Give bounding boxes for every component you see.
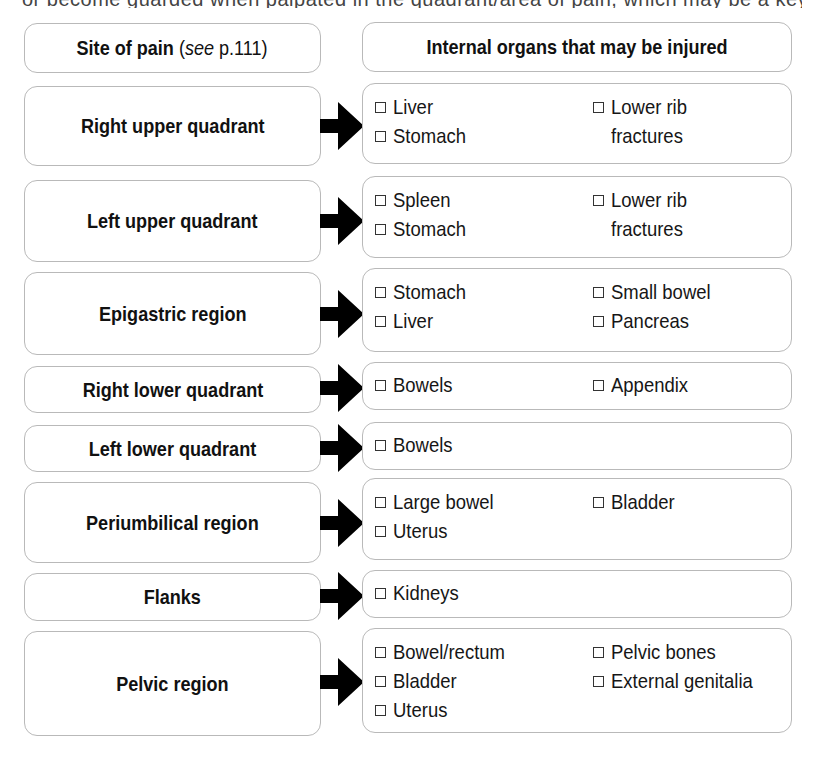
site-label: Flanks [144,585,201,609]
organ-item: Stomach [375,277,476,306]
organ-item: Pelvic bones [593,637,772,666]
empty-checkbox-icon [375,195,386,206]
empty-checkbox-icon [593,497,604,508]
site-label: Periumbilical region [86,511,259,535]
empty-checkbox-icon [593,380,604,391]
empty-checkbox-icon [375,287,386,298]
organ-item: Kidneys [375,578,468,607]
organ-item: Appendix [593,370,699,399]
empty-checkbox-icon [375,526,386,537]
empty-checkbox-icon [593,316,604,327]
internal-organs-header: Internal organs that may be injured [362,22,792,72]
empty-checkbox-icon [375,647,386,658]
empty-checkbox-icon [375,440,386,451]
organs-box-right-upper-quadrant: Liver Stomach Lower rib fractures [362,83,792,164]
organ-item: Lower rib [593,185,697,214]
site-label: Left lower quadrant [89,437,257,461]
organs-box-left-lower-quadrant: Bowels [362,422,792,470]
organs-box-periumbilical-region: Large bowel Uterus Bladder [362,478,792,560]
organ-item: Bladder [593,487,683,516]
organ-item: Bladder [375,666,520,695]
internal-organs-heading: Internal organs that may be injured [426,35,727,59]
right-arrow-icon [320,364,364,412]
right-arrow-icon [320,424,364,472]
organ-item: Stomach [375,214,476,243]
site-box-right-upper-quadrant: Right upper quadrant [24,86,321,166]
organ-item: Stomach [375,121,476,150]
right-arrow-icon [320,658,364,706]
empty-checkbox-icon [375,705,386,716]
organ-item: Pancreas [593,306,724,335]
site-of-pain-header: Site of pain (see p.111) [24,23,321,73]
empty-checkbox-icon [375,380,386,391]
empty-checkbox-icon [593,676,604,687]
right-arrow-icon [320,572,364,620]
organ-item-continuation: fractures [593,121,697,150]
right-arrow-icon [320,499,364,547]
empty-checkbox-icon [375,588,386,599]
organ-item: Liver [375,92,476,121]
site-label: Right lower quadrant [82,378,263,402]
organ-item: Uterus [375,516,507,545]
empty-checkbox-icon [593,102,604,113]
site-of-pain-heading: Site of pain (see p.111) [77,36,268,60]
organs-box-left-upper-quadrant: Spleen Stomach Lower rib fractures [362,176,792,258]
empty-checkbox-icon [593,287,604,298]
site-label: Epigastric region [99,302,247,326]
site-box-left-upper-quadrant: Left upper quadrant [24,180,321,262]
site-label: Pelvic region [116,672,228,696]
empty-checkbox-icon [375,102,386,113]
empty-checkbox-icon [375,316,386,327]
site-label: Left upper quadrant [87,209,258,233]
empty-checkbox-icon [375,224,386,235]
organ-item: Spleen [375,185,476,214]
empty-checkbox-icon [593,195,604,206]
organs-box-epigastric-region: Stomach Liver Small bowel Pancreas [362,268,792,352]
organs-box-pelvic-region: Bowel/rectum Bladder Uterus Pelvic bones… [362,628,792,733]
right-arrow-icon [320,290,364,338]
empty-checkbox-icon [593,647,604,658]
organs-box-right-lower-quadrant: Bowels Appendix [362,362,792,410]
cutoff-text-line: or become guarded when palpated in the q… [22,0,802,8]
site-box-right-lower-quadrant: Right lower quadrant [24,366,321,413]
organ-item: Liver [375,306,476,335]
empty-checkbox-icon [375,131,386,142]
site-box-flanks: Flanks [24,573,321,621]
empty-checkbox-icon [375,676,386,687]
right-arrow-icon [320,102,364,150]
organ-item: Uterus [375,695,520,724]
organ-item: Bowels [375,370,461,399]
site-box-periumbilical-region: Periumbilical region [24,482,321,563]
organ-item: Bowels [375,430,461,459]
site-box-epigastric-region: Epigastric region [24,272,321,355]
site-box-left-lower-quadrant: Left lower quadrant [24,425,321,472]
organ-item: Lower rib [593,92,697,121]
organ-item-continuation: fractures [593,214,697,243]
right-arrow-icon [320,197,364,245]
site-label: Right upper quadrant [81,114,265,138]
organ-item: External genitalia [593,666,772,695]
organs-box-flanks: Kidneys [362,570,792,618]
organ-item: Small bowel [593,277,724,306]
organ-item: Bowel/rectum [375,637,520,666]
empty-checkbox-icon [375,497,386,508]
organ-item: Large bowel [375,487,507,516]
site-box-pelvic-region: Pelvic region [24,631,321,736]
